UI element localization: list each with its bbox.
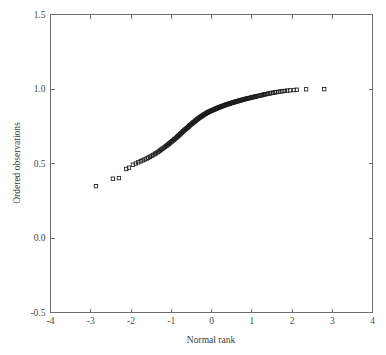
y-tick-label: -0.5 [30, 308, 45, 318]
data-point-marker [304, 88, 307, 91]
x-tick-label: -2 [127, 316, 135, 326]
x-axis-ticks [51, 15, 373, 313]
x-tick-label: 4 [370, 316, 375, 326]
y-tick-label: 0.0 [34, 233, 46, 243]
x-tick-label: 0 [209, 316, 214, 326]
y-tick-label: 1.0 [34, 84, 46, 94]
data-point-marker [94, 184, 97, 187]
y-tick-label: 0.5 [34, 159, 46, 169]
x-tick-label: 1 [249, 316, 254, 326]
x-tick-label: -3 [87, 316, 95, 326]
data-point-marker [111, 177, 114, 180]
qq-plot-figure: -4-3-2-101234 -0.50.00.51.01.5 Normal ra… [0, 0, 386, 355]
x-axis-title: Normal rank [187, 335, 236, 345]
data-point-marker [137, 161, 140, 164]
x-tick-label: -1 [167, 316, 175, 326]
data-point-marker [323, 87, 326, 90]
x-tick-label: 3 [330, 316, 335, 326]
x-tick-label: 2 [290, 316, 295, 326]
chart-canvas: -4-3-2-101234 -0.50.00.51.01.5 Normal ra… [0, 0, 386, 355]
y-tick-label: 1.5 [34, 10, 46, 20]
x-tick-label: -4 [47, 316, 55, 326]
axis-frame [51, 15, 373, 313]
y-axis-tick-labels: -0.50.00.51.01.5 [30, 10, 45, 318]
y-axis-ticks [51, 15, 373, 313]
data-point-markers [94, 87, 326, 187]
y-axis-title: Ordered observations [12, 122, 22, 204]
x-axis-tick-labels: -4-3-2-101234 [47, 316, 376, 326]
data-point-marker [117, 176, 120, 179]
